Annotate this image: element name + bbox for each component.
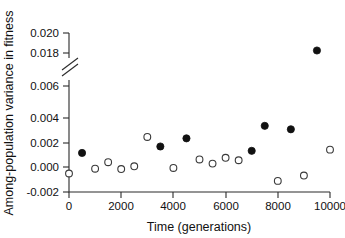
data-marker-group [66,47,334,184]
scatter-plot-figure: 0.020 0.018 0.006 0.004 0.002 0.000 -0.0… [0,0,345,238]
y-tick-marks [63,33,69,192]
data-point-open [327,146,334,153]
data-point-filled [157,143,164,150]
y-tick-label: 0.018 [30,47,59,59]
data-point-open [105,159,112,166]
plot-canvas: 0.020 0.018 0.006 0.004 0.002 0.000 -0.0… [0,0,345,238]
data-point-open [196,156,203,163]
x-tick-label: 10000 [314,200,345,212]
x-tick-marks [69,192,330,198]
data-point-open [131,163,138,170]
x-axis-label: Time (generations) [147,220,251,234]
data-point-open [170,165,177,172]
data-point-filled [248,147,255,154]
y-axis-label: Among-population variance in fitness [2,11,16,216]
data-point-open [66,170,73,177]
data-point-filled [183,135,190,142]
data-point-filled [78,149,85,156]
x-tick-label: 6000 [213,200,239,212]
x-tick-label: 0 [66,200,72,212]
y-tick-label: 0.004 [30,112,59,124]
data-point-filled [313,47,320,54]
data-point-open [209,160,216,167]
data-point-filled [261,122,268,129]
data-point-open [235,157,242,164]
data-point-open [274,178,281,185]
y-tick-label: 0.020 [30,27,59,39]
y-tick-label: 0.002 [30,137,59,149]
data-point-filled [287,126,294,133]
x-tick-label: 8000 [265,200,291,212]
y-axis-break-icon [62,58,78,80]
axis-spines [69,33,330,192]
y-tick-label: 0.000 [30,161,59,173]
data-point-open [118,166,125,173]
data-point-open [301,172,308,179]
x-tick-labels: 0 2000 4000 6000 8000 10000 [66,200,345,212]
y-tick-label: 0.006 [30,80,59,92]
data-point-open [222,154,229,161]
y-tick-labels: 0.020 0.018 0.006 0.004 0.002 0.000 -0.0… [26,27,59,198]
data-point-open [144,134,151,141]
y-tick-label: -0.002 [26,186,59,198]
x-tick-label: 2000 [108,200,134,212]
data-point-open [92,165,99,172]
x-tick-label: 4000 [160,200,186,212]
